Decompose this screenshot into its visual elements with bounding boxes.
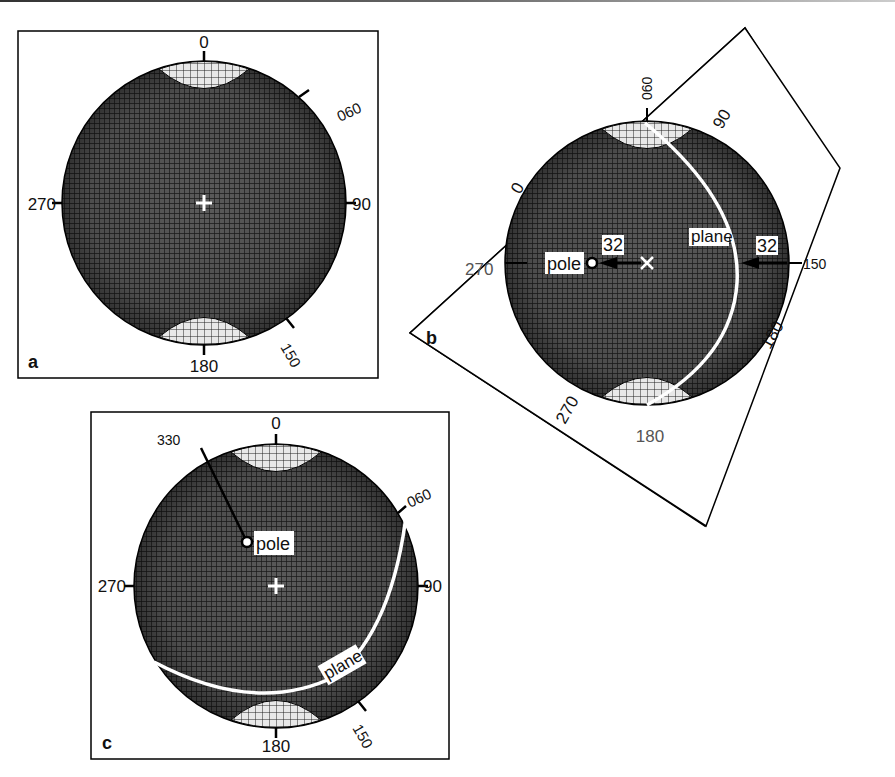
- dip-label-left: 32: [603, 235, 623, 255]
- dip-label-right: 32: [757, 236, 777, 256]
- label-c-330: 330: [157, 432, 181, 448]
- label-b-150: 150: [803, 256, 827, 272]
- label-180: 180: [190, 357, 218, 376]
- panel-b: pole 32 plane 32 060 90 0 180 270 180 27…: [410, 28, 840, 526]
- pole-label: pole: [256, 534, 290, 554]
- pole-point: [242, 537, 252, 547]
- label-270: 270: [28, 195, 56, 214]
- pole-point: [587, 258, 597, 268]
- label-90: 90: [352, 195, 371, 214]
- plane-label: plane: [691, 227, 733, 246]
- stereonet-figure: 0 90 180 270 060 150 a pole 32 plane: [0, 0, 895, 777]
- panel-label-a: a: [28, 352, 39, 372]
- pole-label: pole: [547, 254, 581, 274]
- label-b-060: 060: [639, 76, 655, 100]
- panel-label-c: c: [102, 733, 112, 753]
- panel-label-b: b: [426, 328, 437, 348]
- label-c-180: 180: [262, 737, 290, 756]
- panel-a: 0 90 180 270 060 150 a: [18, 31, 378, 378]
- label-b-180: 180: [636, 427, 664, 446]
- label-c-90: 90: [423, 577, 442, 596]
- label-b-270: 270: [465, 260, 493, 279]
- label-c-0: 0: [271, 414, 280, 433]
- label-c-270: 270: [98, 577, 126, 596]
- panel-c: pole plane 0 90 180 270 060 150 330 c: [91, 412, 449, 759]
- label-0: 0: [199, 33, 208, 52]
